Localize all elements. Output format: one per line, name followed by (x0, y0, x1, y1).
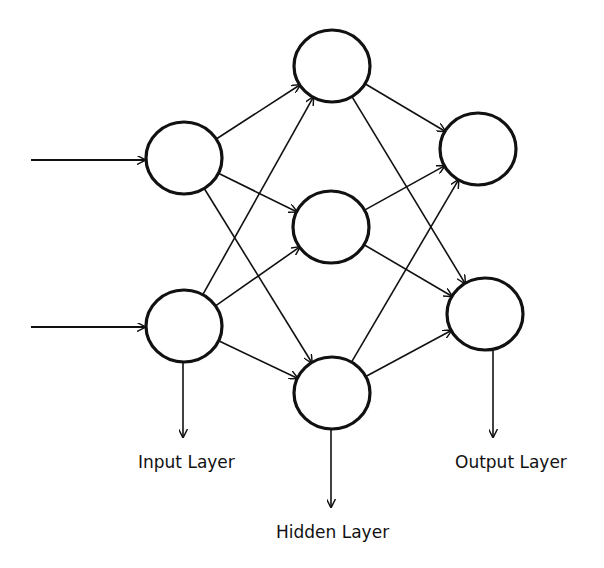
edge-i1-h1 (216, 85, 299, 139)
hidden-node-h1 (294, 30, 370, 102)
output-node-o2 (447, 278, 523, 350)
hidden-layer-label: Hidden Layer (276, 522, 389, 542)
input-node-i2 (146, 290, 222, 362)
edge-i2-h2 (216, 247, 300, 306)
edge-i2-h1 (203, 97, 313, 294)
edge-h2-o1 (365, 166, 445, 210)
edge-i1-h2 (218, 173, 296, 211)
output-node-o1 (440, 113, 516, 185)
neuron-nodes (146, 30, 523, 429)
network-graph (0, 0, 604, 568)
edge-h2-o2 (364, 245, 452, 297)
neural-network-diagram: Input Layer Hidden Layer Output Layer (0, 0, 604, 568)
edge-i2-h3 (219, 341, 298, 378)
input-layer-label: Input Layer (138, 452, 235, 472)
edge-h1-o1 (365, 84, 445, 131)
input-node-i1 (146, 122, 222, 194)
hidden-node-h3 (294, 357, 370, 429)
edge-h3-o2 (366, 331, 451, 377)
hidden-node-h2 (293, 191, 369, 263)
output-layer-label: Output Layer (455, 452, 567, 472)
annotation-arrows (31, 160, 493, 507)
